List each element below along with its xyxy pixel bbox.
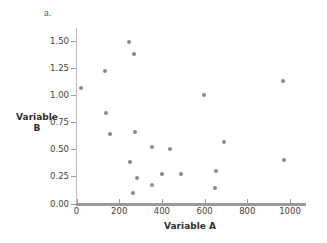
x-axis-tick-label: 400: [142, 206, 182, 216]
y-axis-tick-label: 1.25: [50, 63, 69, 73]
data-point: [127, 40, 131, 44]
data-point: [132, 52, 136, 56]
y-axis-title: VariableB: [8, 112, 66, 134]
data-point: [79, 86, 83, 90]
y-axis-title-line: B: [8, 123, 66, 134]
x-axis-title: Variable A: [120, 221, 260, 231]
data-point: [214, 169, 218, 173]
x-axis-tick: [205, 199, 206, 204]
data-point: [179, 172, 183, 176]
data-point: [281, 79, 285, 83]
x-axis-tick-label: 200: [99, 206, 139, 216]
x-axis-tick: [162, 199, 163, 204]
data-point: [222, 140, 226, 144]
data-point: [108, 132, 112, 136]
data-point: [103, 69, 107, 73]
data-point: [213, 186, 217, 190]
y-axis-tick: [71, 41, 76, 42]
x-axis-tick-label: 1000: [270, 206, 310, 216]
y-axis-tick-label: 0.50: [50, 144, 69, 154]
data-point: [150, 145, 154, 149]
y-axis-title-line: Variable: [8, 112, 66, 123]
y-axis-tick: [71, 122, 76, 123]
y-axis-tick: [71, 68, 76, 69]
x-axis-tick: [247, 199, 248, 204]
y-axis-tick-label: 0.25: [50, 171, 69, 181]
data-point: [128, 160, 132, 164]
data-point: [160, 172, 164, 176]
x-axis-tick-label: 600: [185, 206, 225, 216]
y-axis-tick-label: 1.50: [50, 36, 69, 46]
data-point: [104, 111, 108, 115]
data-point: [150, 183, 154, 187]
y-axis-tick: [71, 95, 76, 96]
y-axis-tick: [71, 204, 76, 205]
x-axis-tick: [119, 199, 120, 204]
data-point: [133, 130, 137, 134]
x-axis-tick: [77, 199, 78, 204]
data-point: [131, 191, 135, 195]
y-axis-line: [76, 28, 77, 204]
y-axis-tick: [71, 149, 76, 150]
y-axis-tick-label: 1.00: [50, 90, 69, 100]
x-axis-tick: [290, 199, 291, 204]
y-axis-tick: [71, 176, 76, 177]
x-axis-tick-label: 800: [227, 206, 267, 216]
data-point: [168, 147, 172, 151]
data-point: [202, 93, 206, 97]
data-point: [135, 176, 139, 180]
x-axis-tick-label: 0: [57, 206, 97, 216]
data-point: [282, 158, 286, 162]
scatter-plot-figure: a. 0.000.250.500.751.001.251.50020040060…: [0, 0, 327, 243]
